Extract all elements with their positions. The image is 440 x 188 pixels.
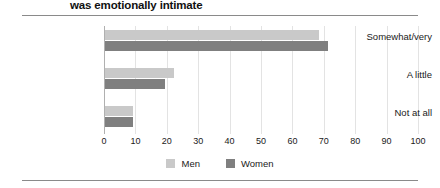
category-label: A little bbox=[340, 69, 432, 80]
x-axis-tick-label: 50 bbox=[256, 136, 266, 146]
bottom-divider-rule bbox=[22, 180, 418, 181]
chart-figure: was emotionally intimate Somewhat/veryA … bbox=[0, 0, 440, 188]
chart-legend: Men Women bbox=[0, 158, 440, 169]
x-axis-tick-label: 60 bbox=[287, 136, 297, 146]
category-label: Somewhat/very bbox=[340, 31, 432, 42]
legend-swatch-men-icon bbox=[166, 159, 175, 168]
legend-swatch-women-icon bbox=[226, 159, 235, 168]
x-axis-tick-label: 30 bbox=[193, 136, 203, 146]
bar-women bbox=[105, 79, 165, 89]
x-axis-ticks: 0102030405060708090100 bbox=[104, 134, 418, 150]
bar-women bbox=[105, 117, 133, 127]
x-axis-tick-label: 10 bbox=[130, 136, 140, 146]
x-axis-tick-label: 80 bbox=[350, 136, 360, 146]
x-axis-tick-label: 90 bbox=[382, 136, 392, 146]
bar-men bbox=[105, 68, 174, 78]
legend-item-women: Women bbox=[226, 158, 274, 169]
x-axis-tick-label: 40 bbox=[225, 136, 235, 146]
x-axis-tick-label: 100 bbox=[410, 136, 425, 146]
legend-label-women: Women bbox=[241, 158, 274, 169]
bar-women bbox=[105, 41, 328, 51]
x-axis-tick-label: 20 bbox=[162, 136, 172, 146]
category-label: Not at all bbox=[340, 107, 432, 118]
bar-men bbox=[105, 30, 319, 40]
top-divider-rule bbox=[22, 15, 418, 16]
legend-item-men: Men bbox=[166, 158, 199, 169]
legend-label-men: Men bbox=[181, 158, 199, 169]
bar-men bbox=[105, 106, 133, 116]
x-axis-tick-label: 70 bbox=[319, 136, 329, 146]
chart-title: was emotionally intimate bbox=[70, 0, 400, 11]
x-axis-tick-label: 0 bbox=[101, 136, 106, 146]
